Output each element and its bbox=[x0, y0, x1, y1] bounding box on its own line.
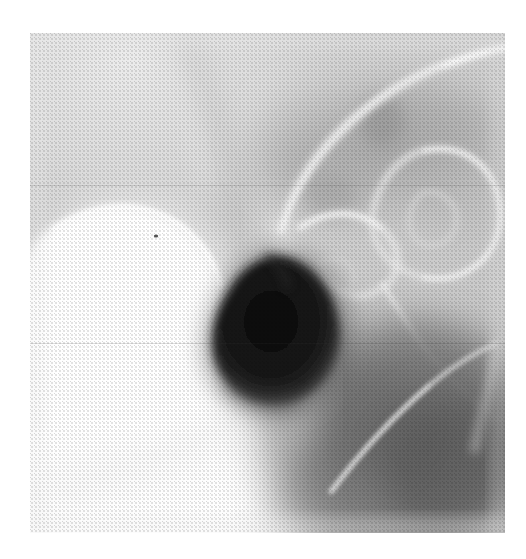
figure-page bbox=[0, 0, 526, 559]
barium-contrast-radiograph bbox=[30, 33, 505, 533]
radiograph-canvas bbox=[30, 33, 505, 533]
punctate-speck bbox=[154, 234, 158, 237]
